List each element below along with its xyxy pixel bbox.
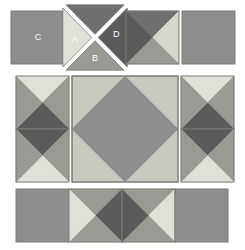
triangle-d-label: D: [113, 29, 120, 39]
right-side-unit-top: [181, 76, 234, 129]
quilt-diagram-canvas: CDBA: [0, 0, 245, 250]
center-square-in-square: [72, 76, 178, 182]
bottom-unit-right: [122, 189, 175, 242]
bottom-corner-square-right: [175, 189, 228, 242]
left-side-unit-top: [16, 76, 69, 129]
assembled-quarter-square: [126, 11, 179, 64]
quilt-shapes-layer: [11, 5, 235, 242]
triangle-a-label: A: [72, 34, 78, 44]
triangle-b-label: B: [92, 53, 98, 63]
solid-square-c-label: C: [35, 32, 42, 42]
bottom-corner-square-right-fill: [175, 189, 228, 242]
right-side-unit-bottom: [181, 129, 234, 182]
bottom-corner-square-left: [16, 189, 69, 242]
quilt-block-diagram: CDBA: [0, 0, 245, 250]
left-side-unit-bottom: [16, 129, 69, 182]
solid-square-plain-fill: [182, 11, 235, 64]
solid-square-plain: [182, 11, 235, 64]
bottom-corner-square-left-fill: [16, 189, 69, 242]
bottom-unit-left: [69, 189, 122, 242]
